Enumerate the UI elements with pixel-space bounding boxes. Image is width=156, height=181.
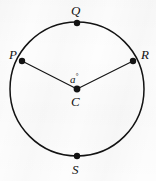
angle-measure-label: a°: [70, 73, 78, 85]
point-label-p: P: [9, 48, 17, 61]
point-dot-q: [74, 20, 80, 26]
point-dot-s: [74, 153, 80, 159]
point-label-q: Q: [71, 4, 80, 17]
point-label-r: R: [141, 48, 149, 61]
segment-c-to-p: [22, 61, 77, 89]
point-label-c: C: [71, 95, 80, 108]
diagram-canvas: Q P R S C a°: [0, 0, 156, 181]
point-label-s: S: [72, 163, 79, 176]
point-dot-r: [130, 58, 136, 64]
degree-symbol: °: [76, 72, 79, 80]
point-dot-p: [19, 58, 25, 64]
point-dot-c: [74, 86, 81, 93]
circle-figure: [0, 0, 156, 181]
segment-c-to-r: [77, 61, 133, 89]
